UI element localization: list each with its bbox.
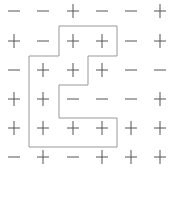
plus-sign [37, 121, 49, 135]
plus-sign [67, 63, 79, 77]
plus-sign [67, 4, 79, 18]
plus-sign [96, 121, 108, 135]
sign-grid-diagram [0, 0, 175, 197]
plus-sign [125, 150, 137, 164]
plus-sign [154, 121, 166, 135]
plus-sign [67, 34, 79, 48]
plus-sign [154, 150, 166, 164]
plus-sign [37, 63, 49, 77]
plus-sign [154, 92, 166, 106]
plus-sign [96, 150, 108, 164]
sign-cells [8, 4, 166, 164]
plus-sign [154, 4, 166, 18]
plus-sign [37, 150, 49, 164]
plus-sign [8, 34, 20, 48]
plus-sign [125, 121, 137, 135]
plus-sign [67, 121, 79, 135]
plus-sign [37, 92, 49, 106]
plus-sign [8, 121, 20, 135]
plus-sign [154, 34, 166, 48]
plus-sign [96, 63, 108, 77]
plus-sign [96, 34, 108, 48]
plus-sign [8, 92, 20, 106]
